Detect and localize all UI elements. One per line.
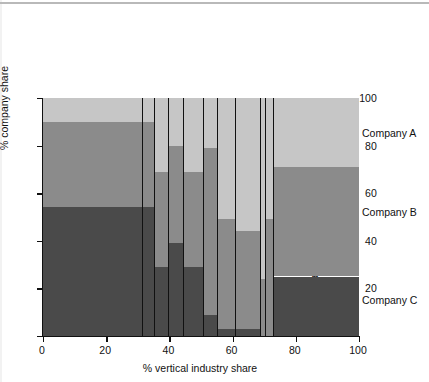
x-axis-tick [169,336,170,342]
mosaic-column[interactable] [169,98,183,336]
scan-top-rule [0,2,429,4]
mosaic-column[interactable] [204,98,218,336]
mosaic-segment [43,207,142,336]
mosaic-column[interactable] [184,98,205,336]
mosaic-column[interactable] [143,98,156,336]
mosaic-segment [266,98,273,219]
mosaic-segment [184,267,204,336]
mosaic-segment [274,98,359,167]
mosaic-segment [274,167,359,276]
mosaic-segment [169,146,182,244]
y-axis-tick [37,146,43,147]
mosaic-segment [169,98,182,146]
x-tick-label: 0 [39,344,45,356]
y-axis-tick [37,241,43,242]
x-axis-tick [296,336,297,342]
mosaic-column[interactable] [274,98,359,336]
mosaic-segment [218,98,234,219]
legend-item[interactable]: Company C [362,294,417,306]
y-axis-title: % company share [0,66,10,150]
mosaic-segment [274,277,359,337]
mosaic-segment [218,219,234,328]
mosaic-segment [143,122,155,208]
mosaic-column[interactable] [266,98,274,336]
x-axis-tick [43,336,44,342]
mosaic-column[interactable] [155,98,169,336]
mosaic-segment [169,243,182,336]
mosaic-segment [261,279,265,336]
y-axis-tick [37,288,43,289]
mosaic-segment [143,98,155,122]
mosaic-segment [204,148,217,315]
legend-item[interactable]: Company B [362,206,417,218]
y-axis-tick [37,193,43,194]
mosaic-segment [43,98,142,122]
mosaic-segment [155,98,168,172]
mosaic-segment [261,98,265,279]
mosaic-segment [204,315,217,336]
mosaic-segment [236,329,260,336]
mosaic-column[interactable] [43,98,143,336]
mosaic-segment [218,329,234,336]
mosaic-column[interactable] [236,98,261,336]
scan-left-edge [0,0,2,382]
mosaic-columns [43,98,359,336]
x-tick-label: 100 [349,344,367,356]
x-tick-label: 80 [289,344,301,356]
mosaic-segment [155,267,168,336]
mosaic-segment [236,98,260,231]
mosaic-segment [43,122,142,208]
mosaic-segment [184,172,204,267]
mosaic-segment [184,98,204,172]
x-axis-tick [233,336,234,342]
mosaic-segment [236,231,260,329]
plot-area [42,98,359,337]
x-axis-tick [106,336,107,342]
mosaic-segment [204,98,217,148]
mosaic-column[interactable] [218,98,235,336]
x-axis-title: % vertical industry share [143,362,257,374]
x-tick-label: 20 [99,344,111,356]
legend-item[interactable]: Company A [362,127,416,139]
x-tick-label: 40 [163,344,175,356]
y-axis-tick [37,98,43,99]
x-axis-tick [359,336,360,342]
x-tick-label: 60 [226,344,238,356]
mosaic-segment [143,207,155,336]
mosaic-segment [266,219,273,336]
chart-root: % company share % vertical industry shar… [0,0,429,382]
mosaic-segment [155,172,168,267]
